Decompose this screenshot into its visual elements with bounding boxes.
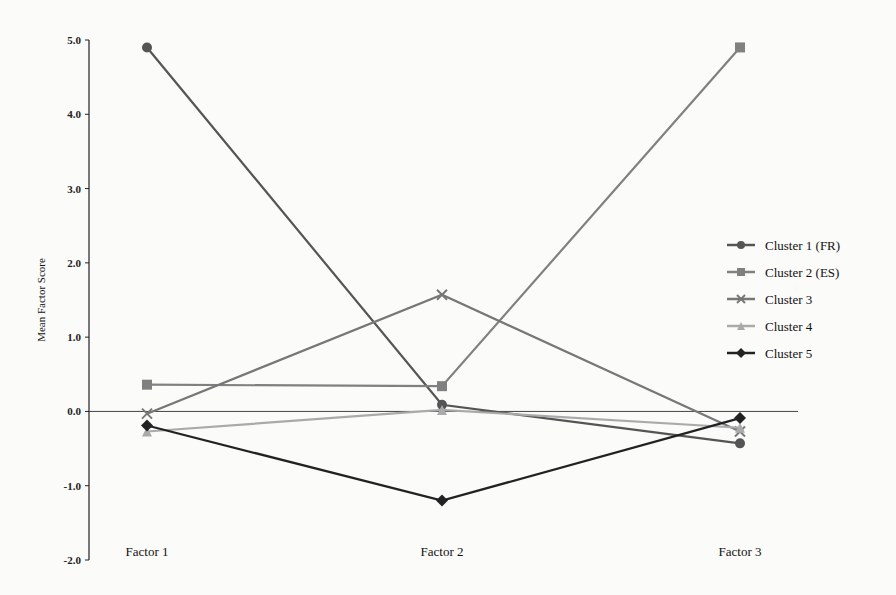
legend: Cluster 1 (FR)Cluster 2 (ES)Cluster 3Clu… — [727, 238, 840, 361]
x-marker — [437, 290, 447, 300]
y-tick-label: 5.0 — [67, 34, 81, 46]
legend-label: Cluster 4 — [765, 319, 813, 334]
legend-item: Cluster 1 (FR) — [727, 238, 840, 253]
legend-label: Cluster 1 (FR) — [765, 238, 840, 253]
legend-label: Cluster 2 (ES) — [765, 265, 839, 280]
legend-item: Cluster 2 (ES) — [727, 265, 839, 280]
x-category-label: Factor 3 — [719, 544, 762, 559]
y-axis-title: Mean Factor Score — [35, 258, 47, 342]
line-chart: 5.04.03.02.01.00.0-1.0-2.0 Factor 1Facto… — [0, 0, 896, 595]
x-axis-labels: Factor 1Factor 2Factor 3 — [126, 544, 762, 559]
y-tick-label: -1.0 — [64, 480, 82, 492]
y-tick-label: 0.0 — [67, 405, 81, 417]
circle-marker — [737, 241, 745, 249]
y-tick-label: -2.0 — [64, 554, 82, 566]
diamond-marker — [141, 420, 153, 432]
y-tick-label: 1.0 — [67, 331, 81, 343]
legend-item: Cluster 3 — [727, 292, 812, 307]
y-tick-label: 2.0 — [67, 257, 81, 269]
diamond-marker — [734, 412, 746, 424]
series-2 — [142, 42, 745, 391]
diamond-marker — [436, 495, 448, 507]
legend-item: Cluster 4 — [727, 319, 813, 334]
square-marker — [142, 380, 152, 390]
x-marker — [142, 409, 152, 419]
legend-item: Cluster 5 — [727, 346, 812, 361]
y-axis: 5.04.03.02.01.00.0-1.0-2.0 — [64, 34, 89, 566]
diamond-marker — [736, 348, 746, 358]
series-line — [147, 47, 740, 386]
y-tick-label: 3.0 — [67, 183, 81, 195]
square-marker — [437, 381, 447, 391]
series-group — [141, 42, 746, 506]
square-marker — [737, 268, 745, 276]
x-category-label: Factor 1 — [126, 544, 169, 559]
legend-label: Cluster 5 — [765, 346, 812, 361]
square-marker — [735, 42, 745, 52]
legend-label: Cluster 3 — [765, 292, 812, 307]
series-line — [147, 418, 740, 500]
x-category-label: Factor 2 — [421, 544, 464, 559]
circle-marker — [142, 42, 152, 52]
y-tick-label: 4.0 — [67, 108, 81, 120]
circle-marker — [735, 438, 745, 448]
